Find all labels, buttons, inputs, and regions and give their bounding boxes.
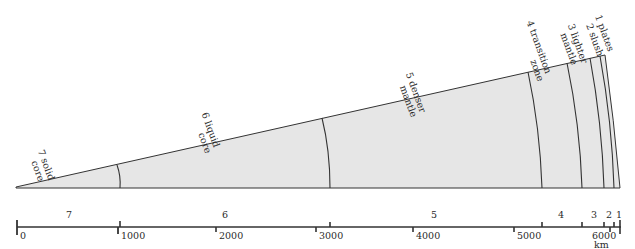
- svg-text:5000: 5000: [517, 230, 541, 241]
- svg-text:7: 7: [66, 209, 72, 220]
- svg-text:5: 5: [431, 209, 437, 220]
- svg-text:6: 6: [222, 209, 228, 220]
- svg-text:4000: 4000: [416, 230, 440, 241]
- svg-text:1000: 1000: [121, 230, 145, 241]
- svg-text:2000: 2000: [219, 230, 243, 241]
- wedge-fill: [16, 55, 620, 188]
- svg-text:3: 3: [591, 209, 597, 220]
- label-lighter-mantle: 3 lighter mantle: [556, 22, 590, 68]
- earth-layers-diagram: 7 solid core 6 liquid core 5 denser mant…: [0, 0, 635, 249]
- zone-numbers: 7 6 5 4 3 2 1: [66, 209, 622, 220]
- label-solid-core: 7 solid core: [27, 148, 58, 185]
- svg-text:3000: 3000: [319, 230, 343, 241]
- svg-text:4: 4: [558, 209, 564, 220]
- unit-label: km: [594, 239, 609, 249]
- scale-tick-labels: 0 1000 2000 3000 4000 5000 6000 km: [20, 230, 616, 249]
- svg-text:1: 1: [616, 209, 622, 220]
- svg-text:2: 2: [606, 209, 612, 220]
- svg-text:0: 0: [20, 230, 26, 241]
